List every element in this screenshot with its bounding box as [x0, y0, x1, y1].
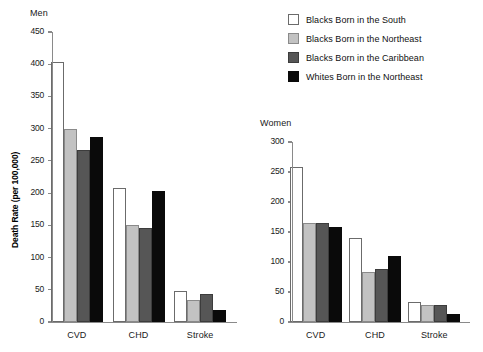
legend-item[interactable]: Blacks Born in the South	[288, 10, 424, 29]
bar	[200, 294, 213, 322]
bar	[152, 191, 165, 322]
bar	[77, 150, 90, 322]
bar	[303, 223, 316, 322]
bar	[434, 305, 447, 322]
y-tick-label: 300	[16, 123, 44, 133]
bar	[388, 256, 401, 322]
y-tick-label: 50	[256, 286, 284, 296]
men-chart-panel: Men Death Rate (per 100,000) 05010015020…	[0, 0, 250, 352]
bar	[90, 137, 103, 322]
bar	[113, 188, 126, 322]
light-gray-swatch-icon	[288, 33, 299, 44]
y-tick-label: 450	[16, 26, 44, 36]
x-axis-category-label: CHD	[109, 330, 169, 340]
y-tick-label: 150	[16, 219, 44, 229]
y-tick-label: 250	[16, 155, 44, 165]
y-tick-label: 150	[256, 226, 284, 236]
bar	[447, 314, 460, 322]
y-tick-label: 400	[16, 58, 44, 68]
x-axis-line	[52, 322, 237, 323]
y-tick-label: 250	[256, 166, 284, 176]
y-tick-label: 50	[16, 284, 44, 294]
y-tick-label: 350	[16, 90, 44, 100]
y-tick-label: 200	[16, 187, 44, 197]
bar	[187, 300, 200, 322]
bar	[174, 291, 187, 322]
bar	[316, 223, 329, 322]
bar	[64, 129, 77, 322]
chart-legend: Blacks Born in the SouthBlacks Born in t…	[288, 10, 424, 86]
bar	[126, 225, 139, 322]
bar	[375, 269, 388, 322]
white-swatch-icon	[288, 14, 299, 25]
x-axis-category-label: Stroke	[404, 330, 464, 340]
x-axis-category-label: Stroke	[170, 330, 230, 340]
bar	[362, 272, 375, 322]
black-swatch-icon	[288, 71, 299, 82]
legend-item[interactable]: Blacks Born in the Caribbean	[288, 48, 424, 67]
legend-item[interactable]: Whites Born in the Northeast	[288, 67, 424, 86]
y-tick-label: 0	[256, 316, 284, 326]
y-tick-label: 100	[256, 256, 284, 266]
men-y-axis-label: Death Rate (per 100,000)	[10, 152, 20, 248]
y-tick-label: 100	[16, 252, 44, 262]
y-axis-line	[292, 142, 293, 323]
men-chart-title: Men	[30, 8, 48, 18]
bar	[139, 228, 152, 322]
women-chart-title: Women	[260, 118, 291, 128]
legend-item-label: Blacks Born in the Caribbean	[306, 53, 424, 63]
bar	[213, 310, 226, 322]
x-axis-category-label: CVD	[47, 330, 107, 340]
x-axis-line	[292, 322, 470, 323]
x-axis-category-label: CVD	[286, 330, 346, 340]
y-axis-line	[52, 32, 53, 323]
legend-item[interactable]: Blacks Born in the Northeast	[288, 29, 424, 48]
bar	[421, 305, 434, 322]
y-tick-label: 300	[256, 136, 284, 146]
legend-item-label: Blacks Born in the South	[306, 15, 406, 25]
bar	[329, 227, 342, 322]
legend-item-label: Blacks Born in the Northeast	[306, 34, 421, 44]
bar	[349, 238, 362, 322]
x-axis-category-label: CHD	[345, 330, 405, 340]
legend-item-label: Whites Born in the Northeast	[306, 72, 422, 82]
y-tick-label: 200	[256, 196, 284, 206]
bar	[408, 302, 421, 322]
dark-gray-swatch-icon	[288, 52, 299, 63]
y-tick-label: 0	[16, 316, 44, 326]
